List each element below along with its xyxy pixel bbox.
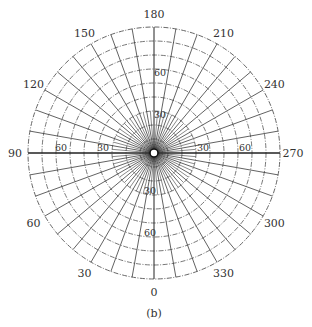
spoke-160: [111, 35, 153, 151]
azimuth-label-120: 120: [23, 78, 44, 91]
spoke-230: [156, 72, 250, 151]
radial-label-top-60: 60: [154, 67, 166, 78]
radial-label-left-30: 30: [97, 142, 109, 153]
spoke-320: [156, 155, 235, 249]
azimuth-label-30: 30: [78, 267, 92, 280]
spoke-110: [36, 110, 152, 152]
azimuth-label-180: 180: [144, 8, 165, 21]
azimuth-label-210: 210: [213, 27, 234, 40]
spoke-70: [36, 154, 152, 196]
radial-label-bottom-30: 30: [144, 185, 156, 196]
radial-label-bottom-60: 60: [144, 227, 156, 238]
spoke-130: [57, 72, 151, 151]
azimuth-label-270: 270: [283, 147, 304, 160]
radial-label-top-30: 30: [154, 109, 166, 120]
center-marker: [148, 147, 160, 159]
azimuth-label-90: 90: [8, 147, 22, 160]
azimuth-label-240: 240: [264, 78, 285, 91]
spoke-190: [154, 29, 175, 150]
azimuth-label-300: 300: [264, 217, 285, 230]
radial-label-right-30: 30: [197, 142, 209, 153]
azimuth-label-0: 0: [151, 286, 158, 299]
spoke-310: [156, 155, 250, 234]
spoke-220: [156, 56, 235, 150]
spoke-350: [154, 156, 175, 277]
center-circle-icon: [150, 149, 158, 157]
spoke-200: [155, 35, 197, 151]
spoke-50: [57, 155, 151, 234]
polar-net-figure: 1802102402703003300306090120150 60303060…: [0, 0, 312, 327]
radial-label-right-60: 60: [239, 142, 251, 153]
spoke-40: [73, 155, 152, 249]
figure-caption: (b): [146, 307, 162, 320]
azimuth-label-150: 150: [74, 27, 95, 40]
spoke-290: [157, 154, 273, 196]
azimuth-label-60: 60: [27, 217, 41, 230]
azimuth-label-330: 330: [213, 267, 234, 280]
spoke-140: [73, 56, 152, 150]
radial-label-left-60: 60: [55, 142, 67, 153]
